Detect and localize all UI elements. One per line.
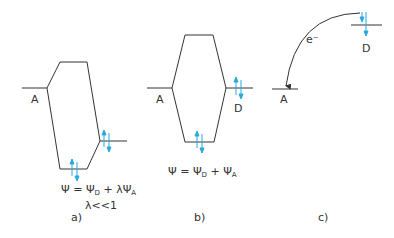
formula-a-plus: + λ [100, 183, 123, 196]
formula-a-psi: Ψ [61, 183, 70, 196]
formula-b-psi: Ψ [168, 165, 177, 178]
formula-b-psiA: Ψ [223, 165, 232, 178]
formula-b-eq: = [177, 165, 193, 178]
formula-b-plus: + [207, 165, 223, 178]
electron-pair-a-bonding [70, 159, 79, 181]
panel-label-c: c) [318, 212, 328, 223]
formula-b: Ψ = ΨD + ΨA [168, 166, 237, 179]
electron-transfer-arrow [286, 13, 360, 86]
panel-b-diagram [147, 35, 253, 142]
formula-b-psiD: Ψ [193, 165, 202, 178]
orbital-mixing-lines-a [47, 62, 100, 169]
panel-label-a: a) [71, 212, 82, 223]
label-b-donor: D [234, 103, 242, 114]
label-c-acceptor: A [280, 94, 288, 105]
orbital-mixing-lines-b [172, 35, 226, 142]
panel-label-b: b) [194, 212, 205, 223]
label-a-acceptor: A [31, 94, 39, 105]
condition-a: λ<<1 [85, 200, 117, 211]
formula-a: Ψ = ΨD + λΨA [61, 184, 136, 197]
label-b-acceptor: A [156, 94, 164, 105]
formula-a-subA: A [131, 189, 136, 197]
panel-a-diagram [22, 62, 127, 169]
formula-a-psiD: Ψ [86, 183, 95, 196]
formula-b-subA: A [232, 171, 237, 179]
diagram-canvas [0, 0, 394, 238]
electron-label: e⁻ [306, 34, 319, 45]
label-c-donor: D [362, 43, 370, 54]
formula-a-eq: = [70, 183, 86, 196]
electron-pair-c-donor [360, 12, 368, 36]
